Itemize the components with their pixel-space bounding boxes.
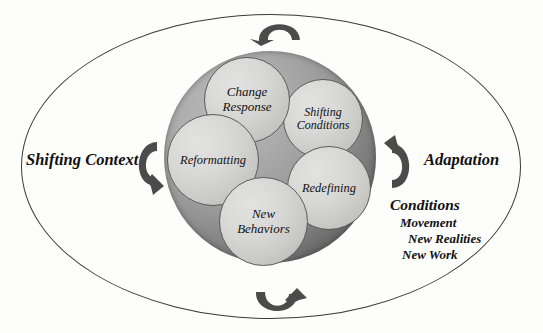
node-reformatting-line1: Reformatting <box>180 153 246 167</box>
node-shifting-conditions-line1: Shifting <box>297 106 350 119</box>
node-new-behaviors-line2: Behaviors <box>237 222 290 237</box>
node-change-response-line2: Response <box>222 100 271 115</box>
node-redefining-line1: Redefining <box>302 181 356 195</box>
conditions-item-movement: Movement <box>400 215 481 231</box>
label-shifting-context: Shifting Context <box>26 150 138 170</box>
rotate-arrow-clockwise-icon <box>126 134 164 196</box>
node-shifting-conditions-line2: Conditions <box>297 119 350 132</box>
node-new-behaviors[interactable]: New Behaviors <box>219 177 308 266</box>
node-change-response-line1: Change <box>222 85 271 100</box>
conditions-item-new-realities: New Realities <box>408 231 481 247</box>
conditions-block: Conditions Movement New Realities New Wo… <box>390 196 481 262</box>
rotate-arrow-counterclockwise-icon <box>383 134 421 196</box>
node-new-behaviors-line1: New <box>237 207 290 222</box>
conditions-item-new-work: New Work <box>402 247 481 263</box>
rotate-arrow-down-left-icon <box>247 10 309 46</box>
conditions-heading: Conditions <box>390 196 481 215</box>
rotate-arrow-up-right-icon <box>247 288 309 324</box>
diagram-canvas: Change Response Shifting Conditions Refo… <box>0 0 543 333</box>
label-adaptation: Adaptation <box>424 150 499 170</box>
